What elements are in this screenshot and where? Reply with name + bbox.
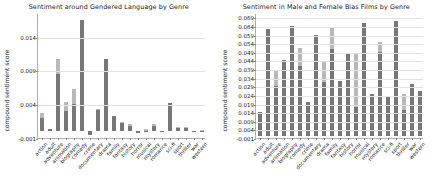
x-tick-mark [178, 138, 179, 140]
bar-group[interactable] [80, 13, 85, 138]
bar-group[interactable] [266, 13, 271, 138]
bar-group[interactable] [128, 13, 133, 138]
bar-group[interactable] [282, 13, 287, 138]
bar-series-left [38, 14, 205, 138]
bar-group[interactable] [386, 13, 391, 138]
x-tick-mark [356, 138, 357, 140]
bar-segment-lower [346, 54, 351, 137]
bar-group[interactable] [64, 13, 69, 138]
y-tick-mark [254, 105, 256, 106]
x-tick-mark [186, 138, 187, 140]
bar-group[interactable] [290, 13, 295, 138]
bar-group[interactable] [418, 13, 423, 138]
bar-segment-lower [72, 104, 77, 132]
x-tick-mark [412, 138, 413, 140]
y-axis-label-right: compound sentiment score [219, 0, 231, 180]
y-tick-mark [254, 61, 256, 62]
bar-group[interactable] [354, 13, 359, 138]
bar-group[interactable] [40, 13, 45, 138]
x-tick-mark [74, 138, 75, 140]
bar-group[interactable] [104, 13, 109, 138]
bar-group[interactable] [274, 13, 279, 138]
bar-group[interactable] [56, 13, 61, 138]
y-tick-mark [36, 38, 38, 39]
gridline [256, 18, 423, 19]
bar-group[interactable] [410, 13, 415, 138]
bar-group[interactable] [136, 13, 141, 138]
gridline [256, 36, 423, 37]
chart-panel-right: Sentiment in Male and Female Bias Films … [218, 0, 435, 180]
y-tick-label: 0.014 [20, 35, 36, 41]
x-tick-mark [380, 138, 381, 140]
bar-segment-lower [80, 20, 85, 131]
y-tick-label: -0.001 [18, 136, 36, 142]
bar-group[interactable] [184, 13, 189, 138]
bar-group[interactable] [192, 13, 197, 138]
bar-group[interactable] [168, 13, 173, 138]
y-tick-label: 0.034 [238, 76, 254, 82]
bar-group[interactable] [48, 13, 53, 138]
bar-group[interactable] [120, 13, 125, 138]
figure-container: Sentiment around Gendered Language by Ge… [0, 0, 435, 180]
bar-group[interactable] [330, 13, 335, 138]
x-tick-mark [292, 138, 293, 140]
y-tick-mark [254, 87, 256, 88]
bar-group[interactable] [378, 13, 383, 138]
y-tick-label: 0.054 [238, 41, 254, 47]
y-tick-mark [36, 71, 38, 72]
gridline [256, 27, 423, 28]
x-tick-mark [202, 138, 203, 140]
y-axis-label-right-text: compound sentiment score [221, 49, 228, 131]
bar-segment-lower [96, 110, 101, 131]
y-tick-mark [254, 139, 256, 140]
bar-group[interactable] [338, 13, 343, 138]
bar-group[interactable] [144, 13, 149, 138]
x-tick-mark [324, 138, 325, 140]
bar-group[interactable] [96, 13, 101, 138]
bar-group[interactable] [394, 13, 399, 138]
x-tick-mark [66, 138, 67, 140]
bar-group[interactable] [112, 13, 117, 138]
bar-group[interactable] [322, 13, 327, 138]
x-tick-mark [372, 138, 373, 140]
x-tick-mark [146, 138, 147, 140]
bar-group[interactable] [88, 13, 93, 138]
bar-group[interactable] [346, 13, 351, 138]
bar-group[interactable] [72, 13, 77, 138]
bar-group[interactable] [298, 13, 303, 138]
bar-group[interactable] [370, 13, 375, 138]
x-tick-mark [106, 138, 107, 140]
bar-segment-lower [88, 131, 93, 134]
bar-group[interactable] [160, 13, 165, 138]
x-tick-mark [276, 138, 277, 140]
bar-segment-lower [274, 86, 279, 136]
bar-group[interactable] [152, 13, 157, 138]
gridline [256, 87, 423, 88]
bar-segment-lower [136, 131, 141, 133]
gridline [256, 70, 423, 71]
bar-segment-lower [282, 60, 287, 136]
y-tick-label: -0.001 [236, 136, 254, 142]
bar-group[interactable] [306, 13, 311, 138]
x-tick-mark [348, 138, 349, 140]
y-tick-label: 0.029 [238, 84, 254, 90]
plot-area-right: -0.0010.0040.0090.0140.0190.0240.0290.03… [255, 14, 423, 139]
bar-group[interactable] [362, 13, 367, 138]
bar-segment-lower [104, 59, 109, 131]
bar-group[interactable] [200, 13, 205, 138]
bar-group[interactable] [402, 13, 407, 138]
bar-group[interactable] [176, 13, 181, 138]
y-tick-mark [254, 18, 256, 19]
gridline [256, 105, 423, 106]
bar-segment-lower [40, 118, 45, 131]
chart-panel-left: Sentiment around Gendered Language by Ge… [0, 0, 218, 180]
y-tick-mark [254, 36, 256, 37]
bar-segment-lower [378, 52, 383, 136]
bar-group[interactable] [314, 13, 319, 138]
gridline [256, 53, 423, 54]
x-tick-mark [82, 138, 83, 140]
x-tick-mark [388, 138, 389, 140]
bar-segment-lower [112, 116, 117, 131]
x-tick-mark [404, 138, 405, 140]
bar-group[interactable] [258, 13, 263, 138]
